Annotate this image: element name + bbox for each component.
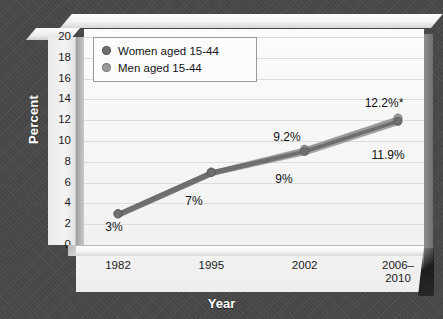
data-label-men-2010: 12.2%* bbox=[365, 96, 404, 110]
y-axis-tick-18: 18 bbox=[49, 52, 71, 64]
series-line-1 bbox=[118, 118, 398, 214]
y-axis-tick-12: 12 bbox=[49, 114, 71, 126]
y-axis-tick-10: 10 bbox=[49, 135, 71, 147]
legend-item-women: Women aged 15-44 bbox=[102, 42, 248, 59]
data-point-marker bbox=[114, 210, 122, 218]
y-axis-tick-14: 14 bbox=[49, 94, 71, 106]
y-axis-title-band: Percent bbox=[14, 38, 48, 243]
data-label-women-2002: 9% bbox=[275, 172, 292, 186]
data-point-marker bbox=[207, 168, 215, 176]
legend-marker-women bbox=[102, 46, 111, 55]
data-label-1995: 7% bbox=[185, 194, 202, 208]
y-axis-title: Percent bbox=[26, 75, 41, 165]
y-axis-tick-4: 4 bbox=[49, 198, 71, 210]
x-axis-title: Year bbox=[12, 296, 431, 311]
chart-left-wall bbox=[76, 37, 84, 245]
data-point-marker bbox=[394, 117, 402, 125]
chart-top-bevel bbox=[60, 14, 443, 28]
y-axis-tick-strip: 20181614121086420 bbox=[48, 37, 78, 245]
x-axis-tick-0: 1982 bbox=[105, 259, 131, 272]
x-axis-tick-band: 1982199520022006– 2010 bbox=[76, 256, 424, 292]
series-line-0 bbox=[118, 121, 398, 214]
data-label-men-2002: 9.2% bbox=[273, 130, 300, 144]
y-axis-tick-16: 16 bbox=[49, 73, 71, 85]
y-axis-tick-2: 2 bbox=[49, 218, 71, 230]
x-axis-tick-2: 2002 bbox=[292, 259, 318, 272]
y-axis-tick-8: 8 bbox=[49, 156, 71, 168]
series-line-shadow-0 bbox=[119, 123, 399, 216]
legend-label-men: Men aged 15-44 bbox=[118, 62, 202, 74]
x-axis-tick-3: 2006– 2010 bbox=[382, 259, 414, 285]
chart-3d-block: Percent 20181614121086420 19821995200220… bbox=[12, 12, 431, 302]
legend-item-men: Men aged 15-44 bbox=[102, 59, 248, 76]
y-axis-tick-20: 20 bbox=[49, 31, 71, 43]
y-axis-tick-6: 6 bbox=[49, 177, 71, 189]
x-axis-tick-1: 1995 bbox=[199, 259, 225, 272]
chart-legend: Women aged 15-44 Men aged 15-44 bbox=[93, 37, 257, 82]
legend-label-women: Women aged 15-44 bbox=[118, 45, 219, 57]
chart-figure: Percent 20181614121086420 19821995200220… bbox=[0, 0, 443, 319]
data-label-women-2010: 11.9% bbox=[371, 148, 404, 162]
data-point-marker bbox=[300, 147, 308, 155]
legend-marker-men bbox=[102, 63, 111, 72]
data-label-1982: 3% bbox=[105, 220, 122, 234]
